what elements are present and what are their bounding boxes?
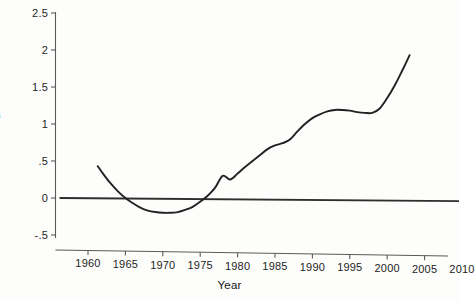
x-tick-label: 1965	[113, 258, 138, 270]
y-tick-label: -.5	[12, 229, 48, 241]
y-tick-label: 1.5	[12, 81, 48, 93]
x-tick-label: 1970	[150, 259, 175, 271]
x-tick-label: 1985	[262, 260, 287, 272]
y-tick-label: .5	[12, 155, 48, 167]
y-axis-label-wrapper: Growth Rate of Agricultural TFP	[0, 118, 108, 134]
x-tick-label: 2010	[449, 263, 474, 275]
x-tick-label: 1995	[337, 261, 362, 273]
y-tick-label: 2	[12, 44, 48, 56]
x-axis-spine	[56, 250, 449, 256]
x-tick-label: 1960	[75, 257, 100, 269]
x-tick-label: 1980	[225, 260, 250, 272]
x-tick-label: 1990	[300, 261, 325, 273]
tfp-growth-line	[98, 55, 410, 213]
x-tick-label: 2005	[412, 263, 437, 275]
x-tick-label: 1975	[188, 259, 213, 271]
zero-reference-line	[60, 198, 459, 201]
x-tick-label: 2000	[375, 262, 400, 274]
y-tick-label: 0	[12, 192, 48, 204]
y-tick-label: 2.5	[12, 7, 48, 19]
x-axis-label: Year	[0, 279, 459, 291]
